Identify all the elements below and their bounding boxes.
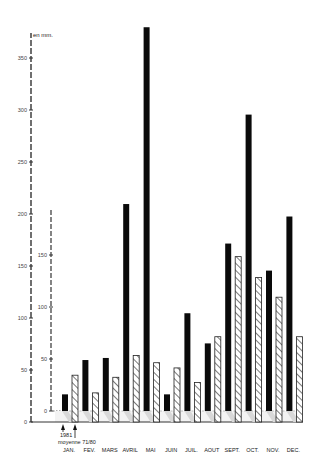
bar-1981 — [266, 271, 272, 411]
month-label: JUIN — [165, 447, 177, 453]
month-label: DEC. — [287, 447, 301, 453]
bar-average — [215, 337, 221, 422]
bar-1981 — [82, 360, 88, 411]
precipitation-chart: 050100150200250300350 050100150 JAN.FEV.… — [0, 0, 323, 472]
legend-1981-label: 1981 — [60, 432, 72, 438]
bar-average — [174, 368, 180, 422]
bar-average — [92, 393, 98, 422]
arrow-average-icon — [73, 424, 77, 430]
outer-tick-label: 0 — [24, 419, 27, 425]
bar-average — [276, 297, 282, 422]
month-label: MARS — [102, 447, 118, 453]
outer-tick-label: 150 — [18, 263, 27, 269]
outer-tick-label: 300 — [18, 107, 27, 113]
outer-tick-label: 50 — [21, 367, 27, 373]
bar-1981 — [225, 244, 231, 411]
bar-1981 — [184, 313, 190, 411]
month-label: SEPT. — [225, 447, 241, 453]
bar-average — [296, 337, 302, 422]
inner-y-axis: 050100150 — [38, 209, 62, 414]
inner-tick-label: 0 — [44, 408, 47, 414]
bar-1981 — [164, 394, 170, 411]
bar-1981 — [144, 27, 150, 411]
bar-average — [133, 355, 139, 422]
month-label: AVRIL — [122, 447, 138, 453]
bar-1981 — [286, 217, 292, 411]
unit-label: en mm. — [33, 32, 53, 38]
month-label: OCT. — [246, 447, 259, 453]
month-label: NOV. — [267, 447, 280, 453]
month-label: JUIL. — [185, 447, 198, 453]
bar-1981 — [246, 115, 252, 411]
legend-average-label: moyenne 71/80 — [58, 439, 96, 445]
outer-tick-label: 250 — [18, 159, 27, 165]
legend: 1981 moyenne 71/80 — [58, 424, 96, 445]
arrow-1981-icon — [61, 424, 65, 430]
month-label: JAN. — [63, 447, 75, 453]
bar-average — [154, 363, 160, 422]
month-label: MAI — [146, 447, 156, 453]
bar-average — [235, 257, 241, 422]
bar-1981 — [62, 394, 68, 411]
outer-tick-label: 200 — [18, 211, 27, 217]
bar-1981 — [123, 204, 129, 411]
bar-average — [72, 375, 78, 422]
inner-tick-label: 100 — [38, 304, 47, 310]
month-label: AOUT — [204, 447, 220, 453]
bar-1981 — [103, 358, 109, 411]
bar-average — [113, 377, 119, 422]
outer-tick-label: 100 — [18, 315, 27, 321]
inner-tick-label: 50 — [41, 356, 47, 362]
bars — [62, 27, 302, 422]
outer-tick-label: 350 — [18, 55, 27, 61]
inner-tick-label: 150 — [38, 252, 47, 258]
bar-1981 — [205, 343, 211, 411]
outer-y-axis: 050100150200250300350 — [18, 33, 33, 425]
bar-average — [194, 382, 200, 422]
month-labels: JAN.FEV.MARSAVRILMAIJUINJUIL.AOUTSEPT.OC… — [63, 447, 300, 453]
bar-average — [256, 277, 262, 422]
month-label: FEV. — [84, 447, 96, 453]
